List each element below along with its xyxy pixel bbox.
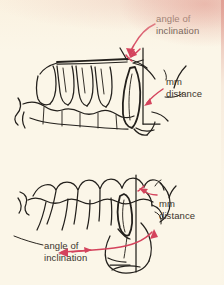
- label-mm-distance-lower: mm distance: [159, 198, 195, 221]
- upper-tooth-3-distal: [87, 66, 93, 106]
- upper-right-gum: [152, 112, 168, 121]
- label-line-2: distance: [159, 210, 195, 221]
- lower-tooth-5: [122, 178, 144, 188]
- lower-far-right-curve: [169, 186, 176, 198]
- lower-root-4: [74, 191, 78, 224]
- label-line-1: angle of: [44, 240, 79, 251]
- upper-crest-right: [143, 66, 155, 79]
- lower-arch-diagram: [14, 175, 176, 273]
- label-line-1: mm: [159, 198, 175, 209]
- label-line-1: mm: [166, 76, 182, 87]
- label-line-2: inclination: [44, 252, 87, 263]
- upper-incisor-midline: [129, 74, 132, 120]
- upper-left-mucosa-curl: [15, 98, 21, 125]
- lower-angle-arrowhead-right: [150, 229, 158, 239]
- label-line-2: distance: [166, 88, 202, 99]
- label-line-2: inclination: [156, 25, 199, 36]
- upper-gingival-line: [23, 102, 134, 117]
- lower-tooth-2: [56, 182, 78, 190]
- lower-central-incisor: [118, 194, 132, 236]
- label-line-1: angle of: [156, 13, 191, 24]
- lower-angle-label-leader: [14, 236, 43, 245]
- label-angle-of-inclination-lower: angle of inclination: [44, 240, 87, 263]
- diagram-artwork: .ink { fill:none; stroke:#23201c; stroke…: [0, 0, 224, 285]
- upper-arch-diagram: [15, 24, 186, 135]
- lower-root-3: [62, 199, 68, 230]
- lower-tooth-1: [33, 185, 56, 196]
- lower-symphysis-outline: [105, 236, 149, 273]
- upper-root-sliver-2: [82, 68, 85, 93]
- lower-incisor-midline: [123, 200, 125, 232]
- upper-tooth-4-distal: [106, 67, 112, 107]
- upper-tooth-4: [95, 67, 106, 107]
- lower-inclination-axis: [124, 237, 127, 258]
- lower-chin-right: [141, 223, 151, 261]
- lower-root-1: [37, 202, 46, 230]
- upper-root-sliver-1: [63, 68, 66, 92]
- lower-root-7: [111, 198, 112, 225]
- lower-root-2: [47, 191, 56, 224]
- upper-tooth-2: [57, 66, 68, 105]
- label-mm-distance-upper: mm distance: [166, 76, 202, 99]
- upper-angle-tick: [120, 48, 127, 60]
- lower-tooth-4: [100, 179, 122, 189]
- lower-left-fold: [18, 198, 21, 213]
- upper-tooth-3: [76, 66, 87, 106]
- upper-tooth-1: [37, 76, 51, 105]
- upper-tooth-1-distal: [50, 66, 56, 104]
- label-angle-of-inclination-upper: angle of inclination: [156, 13, 199, 36]
- upper-neck-5: [116, 115, 117, 129]
- upper-root-sliver-3: [101, 69, 104, 94]
- lower-tooth-3: [78, 180, 100, 190]
- dental-inclination-figure: .ink { fill:none; stroke:#23201c; stroke…: [0, 0, 224, 285]
- lower-chin-inner: [108, 258, 126, 262]
- lower-tooth-6: [144, 180, 164, 190]
- upper-left-fold: [23, 112, 25, 128]
- upper-tooth-2-distal: [68, 66, 74, 105]
- upper-lower-gum-line: [30, 118, 128, 129]
- palate-line: [57, 59, 128, 62]
- lower-root-6: [99, 190, 100, 221]
